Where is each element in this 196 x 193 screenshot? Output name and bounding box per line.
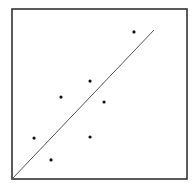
data-point — [59, 95, 62, 98]
scatter-chart — [0, 0, 196, 193]
data-point — [102, 100, 105, 103]
data-point — [32, 136, 35, 139]
data-point — [88, 79, 91, 82]
plot-frame — [12, 9, 187, 179]
regression-line — [12, 30, 154, 179]
data-point — [132, 30, 135, 33]
data-point — [88, 135, 91, 138]
data-point — [49, 158, 52, 161]
chart-canvas — [0, 0, 196, 193]
